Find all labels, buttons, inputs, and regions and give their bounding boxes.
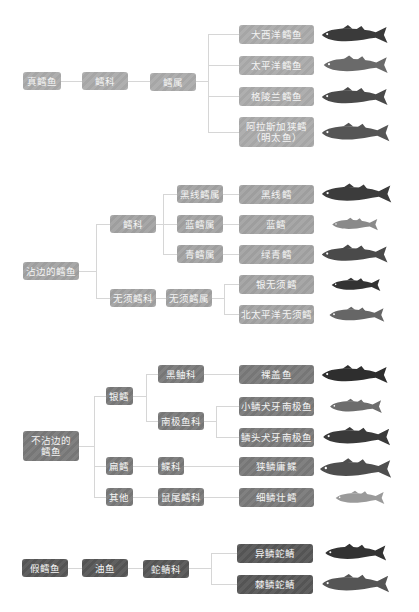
fish-image-greenland-cod	[320, 84, 392, 110]
fish-image-pollock	[320, 242, 392, 267]
node-alaska-pollock: 阿拉斯加狭鳕 （明太鱼）	[239, 117, 314, 147]
fish-image-sablefish	[320, 364, 392, 386]
fish-image-pacific-cod	[322, 54, 392, 76]
connector	[146, 374, 147, 421]
connector	[94, 396, 95, 497]
node-greenland-cod: 格陵兰鳕鱼	[239, 87, 314, 106]
fish-image-blue-whiting	[320, 217, 392, 232]
connector	[128, 81, 150, 82]
connector	[94, 497, 106, 498]
connector	[224, 284, 239, 285]
connector	[211, 553, 212, 584]
node-merluccius: 无须鳕属	[166, 289, 212, 307]
connector	[208, 34, 239, 35]
connector	[96, 298, 110, 299]
connector	[128, 568, 143, 569]
fish-image-haddock	[320, 181, 396, 207]
connector	[132, 466, 158, 467]
connector	[208, 65, 239, 66]
node-pleuronectidae: 鲽科	[158, 457, 184, 475]
node-related-cod: 沾边的鳕鱼	[23, 262, 79, 280]
node-grenadier: 细鳞壮鳕	[239, 488, 314, 507]
fish-image-alaska-pollock	[320, 120, 394, 146]
node-true-cod: 真鳕鱼	[23, 72, 61, 90]
connector	[155, 224, 177, 225]
connector	[216, 437, 239, 438]
connector	[216, 406, 217, 437]
connector	[96, 224, 110, 225]
connector	[132, 497, 158, 498]
node-anoplopomatidae: 黑鲉科	[158, 365, 204, 383]
node-blue-whiting: 蓝鳕	[239, 215, 314, 234]
node-other-group: 其他	[106, 488, 133, 506]
node-flat-cod-group: 扁鳕	[106, 457, 133, 475]
node-gadus: 鳕属	[150, 73, 196, 91]
node-pacific-cod: 太平洋鳕鱼	[239, 56, 314, 75]
connector	[60, 81, 82, 82]
node-merlucciidae: 无须鳕科	[110, 289, 156, 307]
connector	[163, 194, 177, 195]
connector	[189, 568, 211, 569]
node-pacific-hake: 北太平洋无须鳕	[239, 305, 314, 324]
node-sablefish: 裸盖鱼	[239, 365, 314, 384]
fish-image-escolar	[318, 543, 396, 563]
connector	[94, 396, 106, 397]
fish-image-patagonian-toothfish	[320, 398, 394, 415]
fish-image-greenland-halibut	[318, 452, 396, 486]
connector	[163, 194, 164, 254]
connector	[208, 96, 239, 97]
node-oilfish: 油鱼	[82, 559, 128, 577]
node-nototheniidae: 南极鱼科	[158, 412, 204, 430]
node-gadidae: 鳕科	[110, 215, 156, 233]
connector	[211, 584, 237, 585]
connector	[212, 298, 224, 299]
connector	[196, 81, 208, 82]
connector	[204, 497, 239, 498]
node-patagonian-toothfish: 小鳞犬牙南极鱼	[239, 397, 314, 416]
node-atlantic-cod: 大西洋鳕鱼	[239, 25, 314, 44]
fish-image-grenadier	[320, 490, 402, 506]
connector	[183, 466, 239, 467]
connector	[146, 421, 158, 422]
connector	[211, 553, 237, 554]
connector	[224, 314, 239, 315]
connector	[68, 568, 82, 569]
node-silver-hake: 银无须鳕	[239, 275, 314, 294]
fish-image-oilfish	[318, 573, 396, 595]
connector	[224, 284, 225, 314]
connector	[78, 446, 94, 447]
connector	[216, 406, 239, 407]
fish-image-atlantic-cod	[320, 22, 392, 48]
connector	[155, 298, 166, 299]
connector	[223, 254, 239, 255]
node-unrelated-cod: 不沾边的 鳕鱼	[23, 431, 79, 461]
connector	[94, 466, 106, 467]
fish-image-silver-hake	[320, 277, 394, 293]
connector	[208, 34, 209, 133]
node-pollachius: 青鳕属	[177, 245, 223, 263]
node-sablefish-group: 银鳕	[106, 387, 133, 405]
connector	[204, 421, 216, 422]
connector	[204, 374, 239, 375]
connector	[163, 254, 177, 255]
connector	[223, 224, 239, 225]
node-antarctic-toothfish: 鳞头犬牙南极鱼	[239, 428, 314, 447]
node-gadidae: 鳕科	[82, 72, 128, 90]
node-escolar: 异鳞蛇鲭	[237, 544, 313, 563]
connector	[78, 271, 96, 272]
node-fake-cod: 假鳕鱼	[22, 559, 68, 577]
fish-image-pacific-hake	[320, 306, 396, 324]
connector	[146, 374, 158, 375]
node-macrouridae: 鼠尾鳕科	[158, 488, 204, 506]
node-haddock: 黑线鳕	[239, 185, 314, 204]
node-micromesistius: 蓝鳕属	[177, 215, 223, 233]
node-greenland-halibut: 狭鳞庸鲽	[239, 457, 314, 476]
connector	[223, 194, 239, 195]
connector	[208, 132, 239, 133]
connector	[96, 224, 97, 298]
node-melanogrammus: 黑线鳕属	[177, 185, 223, 203]
fish-image-antarctic-toothfish	[320, 426, 396, 448]
node-pollock: 绿青鳕	[239, 245, 314, 264]
node-oilfish-species: 棘鳞蛇鲭	[237, 575, 313, 594]
node-gempylidae: 蛇鲭科	[143, 560, 189, 578]
